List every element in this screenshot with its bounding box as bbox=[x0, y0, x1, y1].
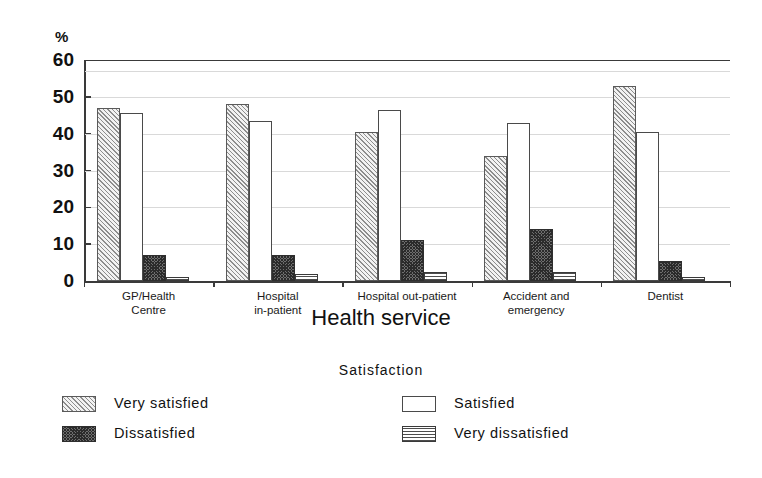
bar-chart: % 0102030405060 GP/HealthCentreHospitali… bbox=[0, 0, 762, 478]
x-axis-tick bbox=[601, 281, 602, 287]
bar-2-3 bbox=[530, 229, 553, 281]
x-axis-line bbox=[84, 281, 731, 283]
bar-0-0 bbox=[97, 108, 120, 281]
bar-0-1 bbox=[226, 104, 249, 281]
x-axis-tick bbox=[472, 281, 473, 287]
legend-label: Satisfied bbox=[454, 395, 515, 411]
bar-0-2 bbox=[355, 132, 378, 281]
y-axis-tick-label: 40 bbox=[36, 124, 74, 143]
legend-swatch-icon bbox=[62, 396, 96, 412]
bar-1-1 bbox=[249, 121, 272, 281]
bar-2-4 bbox=[659, 261, 682, 281]
legend-swatch-icon bbox=[62, 426, 96, 442]
x-axis-tick bbox=[342, 281, 343, 287]
category-label-4: Dentist bbox=[590, 290, 740, 304]
y-axis-tick-label: 30 bbox=[36, 161, 74, 180]
bar-0-3 bbox=[484, 156, 507, 281]
bar-3-0 bbox=[166, 277, 189, 281]
legend-label: Dissatisfied bbox=[114, 425, 195, 441]
y-axis-tick-label: 20 bbox=[36, 197, 74, 216]
category-label-line: Dentist bbox=[590, 290, 740, 304]
y-axis-tick-label: 0 bbox=[36, 271, 74, 290]
legend-title: Satisfaction bbox=[0, 362, 762, 378]
y-axis-tick-label: 60 bbox=[36, 50, 74, 69]
bar-2-0 bbox=[143, 255, 166, 281]
y-axis-tick bbox=[84, 207, 91, 208]
legend-label: Very satisfied bbox=[114, 395, 209, 411]
bar-0-4 bbox=[613, 86, 636, 281]
y-axis-tick bbox=[84, 170, 91, 171]
bar-3-4 bbox=[682, 277, 705, 281]
x-axis-title: Health service bbox=[0, 305, 762, 331]
bar-1-3 bbox=[507, 123, 530, 281]
y-axis-tick bbox=[84, 96, 91, 97]
bar-2-2 bbox=[401, 240, 424, 281]
legend-swatch-icon bbox=[402, 426, 436, 442]
legend-swatch-icon bbox=[402, 396, 436, 412]
category-label-line: GP/Health bbox=[74, 290, 224, 304]
category-label-line: Hospital out-patient bbox=[332, 290, 482, 304]
y-axis-tick bbox=[84, 133, 91, 134]
legend-label: Very dissatisfied bbox=[454, 425, 569, 441]
x-axis-tick bbox=[213, 281, 214, 287]
bar-3-3 bbox=[553, 272, 576, 281]
category-label-2: Hospital out-patient bbox=[332, 290, 482, 304]
bar-2-1 bbox=[272, 255, 295, 281]
legend: Very satisfiedDissatisfiedSatisfiedVery … bbox=[62, 394, 702, 454]
bar-1-4 bbox=[636, 132, 659, 281]
gridline-upper bbox=[85, 71, 730, 72]
bar-1-2 bbox=[378, 110, 401, 281]
bar-3-1 bbox=[295, 274, 318, 281]
y-axis-tick-label: 50 bbox=[36, 87, 74, 106]
y-axis-tick-label: 10 bbox=[36, 234, 74, 253]
x-axis-tick bbox=[84, 281, 85, 287]
bar-3-2 bbox=[424, 272, 447, 281]
y-axis-tick bbox=[84, 243, 91, 244]
bar-1-0 bbox=[120, 113, 143, 281]
category-label-line: Accident and bbox=[461, 290, 611, 304]
category-label-line: Hospital bbox=[203, 290, 353, 304]
y-axis-tick-labels: 0102030405060 bbox=[30, 0, 74, 300]
x-axis-tick bbox=[730, 281, 731, 287]
